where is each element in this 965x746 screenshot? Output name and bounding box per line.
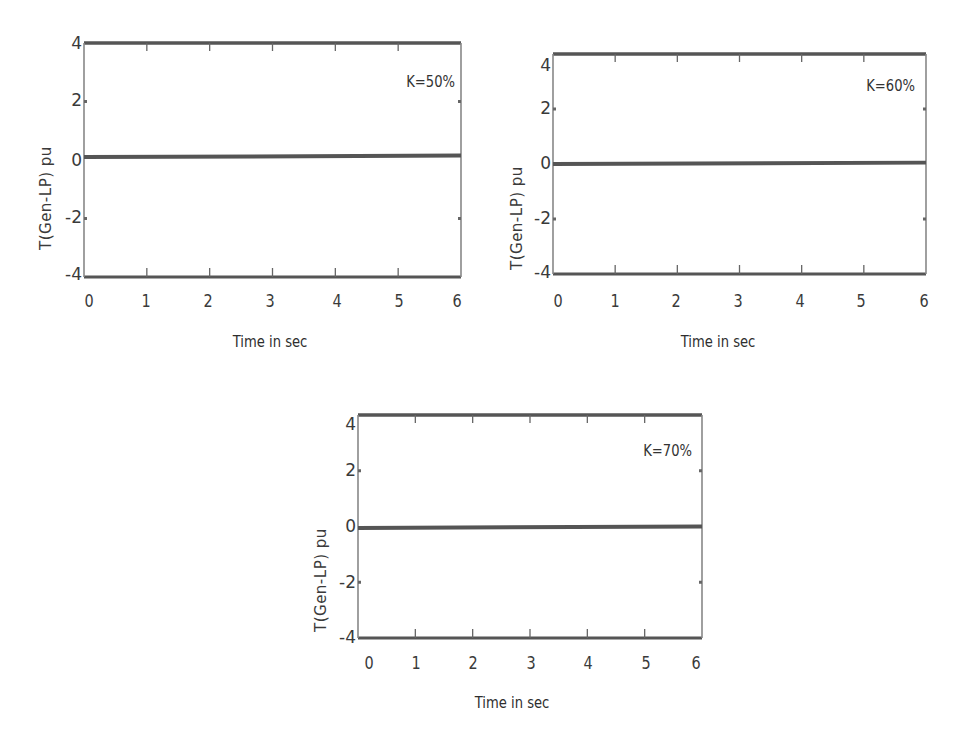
y-tick-label: -4 <box>332 627 356 647</box>
x-tick-label: 1 <box>408 653 425 673</box>
plot-area <box>0 0 965 746</box>
x-tick-label: 5 <box>638 653 655 673</box>
x-tick-label: 2 <box>465 653 482 673</box>
y-tick-label: -2 <box>332 572 356 592</box>
x-axis-label: Time in sec <box>455 693 570 712</box>
y-tick-label: 0 <box>332 516 356 536</box>
x-tick-label: 3 <box>523 653 540 673</box>
y-axis-label: T(Gen-LP) pu <box>312 528 330 632</box>
chart-k70: T(Gen-LP) pu 4 2 0 -2 -4 0 1 2 3 4 5 6 T… <box>0 0 965 746</box>
x-tick-label: 6 <box>688 653 705 673</box>
x-tick-label: 0 <box>361 653 378 673</box>
data-line <box>358 527 702 528</box>
y-tick-label: 2 <box>332 460 356 480</box>
y-tick-label: 4 <box>332 414 356 434</box>
x-tick-label: 4 <box>580 653 597 673</box>
k-value-annotation: K=70% <box>610 441 692 460</box>
